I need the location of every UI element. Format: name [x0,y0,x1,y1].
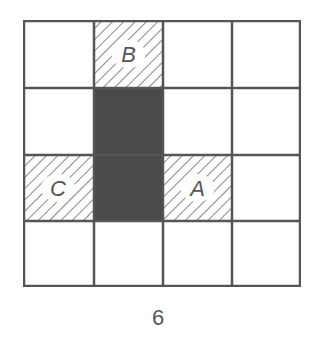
cell-label-c: C [50,176,66,201]
grid-diagram: B C A [23,20,301,287]
hatched-cell-b: B [94,20,163,88]
cell-label-b: B [121,42,136,67]
hatched-cell-a: A [163,155,232,221]
cell-label-a: A [188,176,205,201]
hatched-cell-c: C [23,155,94,221]
figure-caption: 6 [0,305,316,331]
grid-lines [23,20,301,287]
